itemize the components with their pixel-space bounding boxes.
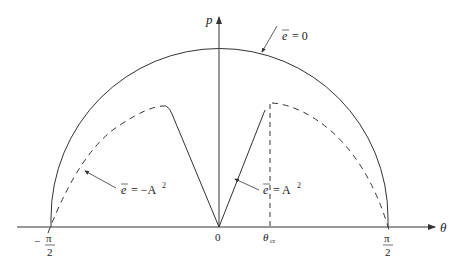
svg-text:e: e: [282, 29, 288, 43]
curve-e-pos-solid: [219, 110, 265, 227]
theta-axis-label: θ: [440, 220, 447, 235]
arrow-e-zero: [262, 26, 277, 52]
tick-neg-sign: −: [34, 235, 40, 247]
label-e-zero: e = 0: [282, 29, 308, 43]
arrow-e-pos: [235, 179, 259, 190]
label-e-pos: e = A 2: [263, 181, 301, 197]
svg-text:= A: = A: [273, 183, 291, 197]
svg-text:= 0: = 0: [292, 29, 308, 43]
tick-theta-cr: θ: [263, 231, 269, 243]
tick-pos-den: 2: [385, 246, 391, 258]
curve-e-neg-dashed: [48, 106, 166, 233]
tick-theta-cr-sub: cr: [270, 237, 276, 245]
arrow-e-neg: [85, 171, 116, 188]
tick-pos-pi: π: [384, 232, 390, 244]
svg-text:= −A: = −A: [131, 183, 157, 197]
p-axis-label: p: [205, 12, 213, 27]
phase-diagram: p θ − π 2 0 θ cr π 2 e = 0 e = −A 2 e = …: [0, 0, 463, 272]
svg-text:e: e: [121, 183, 127, 197]
tick-neg-den: 2: [47, 246, 53, 258]
svg-text:e: e: [263, 183, 269, 197]
svg-text:2: 2: [297, 181, 301, 190]
tick-zero: 0: [215, 231, 221, 243]
curve-e-neg-solid: [166, 106, 219, 227]
curve-e-pos-dashed: [272, 103, 389, 230]
svg-text:2: 2: [162, 181, 166, 190]
tick-neg-pi: π: [46, 232, 52, 244]
label-e-neg: e = −A 2: [121, 181, 166, 197]
